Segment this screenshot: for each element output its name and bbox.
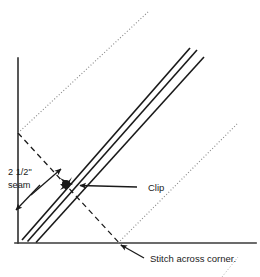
fold-guide-upper-left-dotted [18,12,148,133]
fold-guide-lower-right-dotted [118,124,237,243]
seam-line-outer [22,48,190,240]
seam-label-word: seam [8,180,31,190]
stitch-across-corner-dashed-line [18,133,122,246]
clip-label: Clip [148,182,164,193]
clip-marker [60,177,73,190]
seam-arrow-up-right [31,169,61,195]
stitch-callout-leader [121,245,144,258]
diagram-canvas: 2 1/2" seam Clip Stitch across corner. [0,0,260,277]
seam-line-inner [36,57,204,243]
clip-callout-leader [80,186,137,188]
seam-label-measurement: 2 1/2" [8,167,32,177]
stitch-across-corner-label: Stitch across corner. [150,253,236,264]
seam-band [22,48,204,243]
seam-line-middle [28,50,198,242]
sewing-diagram: 2 1/2" seam Clip Stitch across corner. [0,0,260,277]
